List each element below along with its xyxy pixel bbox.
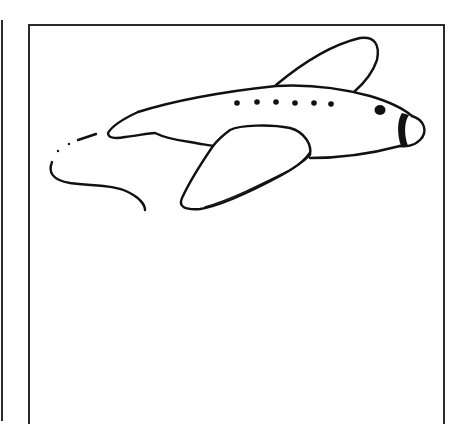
window-dot-4 (292, 100, 298, 106)
lower-wing (181, 126, 310, 210)
trail-dot-2 (68, 143, 70, 145)
motion-trail-dash (78, 134, 96, 140)
window-dot-6 (328, 101, 334, 107)
trail-dot-1 (57, 150, 59, 152)
fuselage-bottom (310, 146, 400, 158)
cockpit-window (375, 105, 386, 115)
upper-wing (276, 38, 378, 92)
window-dot-5 (311, 100, 317, 106)
lower-wing-edge (205, 152, 310, 207)
window-dot-2 (254, 99, 260, 105)
motion-trail-curve (51, 162, 145, 210)
window-dot-1 (234, 100, 240, 106)
nose-band (398, 113, 409, 146)
window-dot-3 (273, 99, 279, 105)
tail-fin (108, 112, 213, 146)
